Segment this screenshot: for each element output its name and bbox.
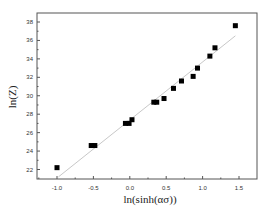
data-point-marker [171,86,176,91]
chart: -1.0-0.50.00.51.01.5 222426283032343638 … [0,0,266,217]
x-tick-label: -0.5 [88,185,99,191]
y-tick-label: 32 [26,74,33,80]
data-point-marker [154,100,159,105]
y-tick-label: 36 [26,37,33,43]
y-tick-label: 34 [26,56,33,62]
x-axis-label: ln(sinh(ασ)) [123,193,177,206]
y-tick-label: 24 [26,148,33,154]
data-point-marker [195,66,200,71]
y-tick-label: 26 [26,130,33,136]
x-tick-label: -1.0 [52,185,63,191]
plot-frame [37,13,257,179]
x-tick-label: 0.0 [126,185,135,191]
data-point-marker [207,54,212,59]
y-tick-label: 22 [26,167,33,173]
y-axis-ticks: 222426283032343638 [26,19,40,173]
x-axis-ticks: -1.0-0.50.00.51.01.5 [39,176,244,191]
y-tick-label: 38 [26,19,33,25]
data-point-marker [179,79,184,84]
y-axis-label: ln(Z) [6,85,19,108]
data-point-marker [129,117,134,122]
x-tick-label: 0.5 [162,185,171,191]
plot-border [37,13,257,179]
data-point-marker [191,74,196,79]
x-tick-label: 1.0 [198,185,207,191]
data-point-marker [162,96,167,101]
y-tick-label: 30 [26,93,33,99]
data-point-marker [55,165,60,170]
data-point-marker [212,45,217,50]
x-tick-label: 1.5 [235,185,244,191]
y-tick-label: 28 [26,111,33,117]
data-points [55,23,238,170]
data-point-marker [233,23,238,28]
data-point-marker [92,143,97,148]
